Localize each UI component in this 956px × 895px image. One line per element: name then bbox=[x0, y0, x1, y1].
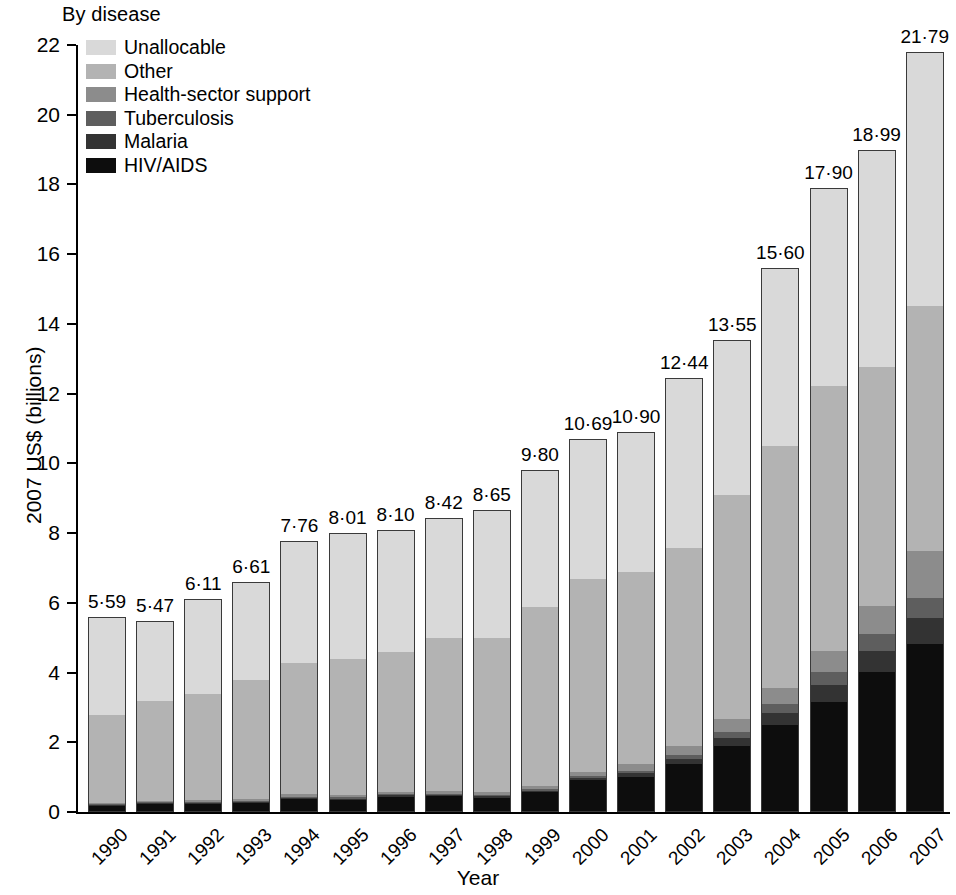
bar bbox=[184, 599, 222, 812]
bar-segment bbox=[859, 150, 895, 367]
bar-segment bbox=[859, 366, 895, 606]
bar-segment bbox=[762, 724, 798, 812]
bar-value-label: 21·79 bbox=[892, 26, 956, 48]
bar-segment bbox=[89, 617, 125, 715]
bar-segment bbox=[907, 597, 943, 618]
bar-value-label: 10·90 bbox=[603, 406, 669, 428]
bar bbox=[810, 188, 848, 812]
y-axis-tick bbox=[67, 462, 76, 464]
bar-segment bbox=[714, 737, 750, 746]
bar-segment bbox=[666, 378, 702, 547]
bar-value-label: 17·90 bbox=[796, 162, 862, 184]
bar-segment bbox=[474, 510, 510, 638]
bar-segment bbox=[907, 52, 943, 306]
bar-segment bbox=[330, 533, 366, 659]
bar-value-label: 18·99 bbox=[844, 124, 910, 146]
bar-segment bbox=[859, 650, 895, 673]
bar bbox=[280, 541, 318, 812]
bar-segment bbox=[378, 530, 414, 653]
bar bbox=[425, 518, 463, 812]
bar-segment bbox=[811, 650, 847, 673]
y-axis-tick-label: 8 bbox=[0, 521, 60, 545]
bar-segment bbox=[618, 571, 654, 764]
bar bbox=[232, 582, 270, 812]
y-axis-tick bbox=[67, 323, 76, 325]
bar-segment bbox=[185, 693, 221, 800]
y-axis-tick-label: 20 bbox=[0, 103, 60, 127]
y-axis-tick bbox=[67, 183, 76, 185]
legend-item: Unallocable bbox=[86, 36, 416, 60]
y-axis-title: 2007 US$ (billions) bbox=[22, 346, 46, 523]
legend-item-label: Health-sector support bbox=[124, 85, 310, 105]
bar-segment bbox=[666, 745, 702, 755]
legend-item: Tuberculosis bbox=[86, 107, 416, 131]
bar-value-label: 12·44 bbox=[651, 352, 717, 374]
legend-item-label: HIV/AIDS bbox=[124, 156, 207, 176]
legend-item-label: Malaria bbox=[124, 132, 188, 152]
bar-segment bbox=[137, 803, 173, 812]
bar-segment bbox=[185, 803, 221, 812]
bar-segment bbox=[426, 518, 462, 638]
bar-segment bbox=[907, 550, 943, 598]
bar-segment bbox=[762, 687, 798, 704]
bar-segment bbox=[378, 651, 414, 791]
bar-segment bbox=[859, 633, 895, 651]
bar-segment bbox=[233, 679, 269, 799]
bar-segment bbox=[666, 547, 702, 746]
bar-segment bbox=[474, 797, 510, 812]
bar-segment bbox=[330, 658, 366, 795]
bar-segment bbox=[522, 470, 558, 606]
y-axis-tick bbox=[67, 114, 76, 116]
bar-segment bbox=[233, 582, 269, 680]
legend-item-label: Unallocable bbox=[124, 38, 226, 58]
bar-segment bbox=[618, 776, 654, 812]
bar bbox=[329, 533, 367, 812]
bar-value-label: 5·47 bbox=[122, 595, 188, 617]
y-axis-tick bbox=[67, 393, 76, 395]
bar-segment bbox=[859, 605, 895, 634]
bar-value-label: 13·55 bbox=[699, 314, 765, 336]
legend-item: Malaria bbox=[86, 130, 416, 154]
bar-segment bbox=[811, 671, 847, 685]
legend-item-label: Tuberculosis bbox=[124, 109, 234, 129]
bar-value-label: 6·61 bbox=[218, 556, 284, 578]
bar-segment bbox=[281, 662, 317, 794]
bar-segment bbox=[714, 745, 750, 812]
bar-segment bbox=[618, 432, 654, 572]
bar bbox=[761, 268, 799, 812]
bar-segment bbox=[426, 795, 462, 812]
bar-segment bbox=[281, 541, 317, 662]
bar-segment bbox=[714, 718, 750, 732]
y-axis-tick bbox=[67, 532, 76, 534]
bar-value-label: 8·65 bbox=[459, 484, 525, 506]
legend-title: By disease bbox=[62, 3, 161, 26]
bar-segment bbox=[281, 798, 317, 812]
bar bbox=[713, 340, 751, 812]
bar-segment bbox=[714, 731, 750, 738]
y-axis-tick-label: 14 bbox=[0, 312, 60, 336]
bar-value-label: 15·60 bbox=[747, 242, 813, 264]
bar-value-label: 9·80 bbox=[507, 444, 573, 466]
bar-segment bbox=[185, 599, 221, 694]
bar-segment bbox=[762, 445, 798, 689]
bar-segment bbox=[714, 494, 750, 719]
bar bbox=[88, 617, 126, 812]
legend-swatch-icon bbox=[86, 158, 116, 173]
legend-swatch-icon bbox=[86, 64, 116, 79]
bar-segment bbox=[762, 712, 798, 724]
legend-swatch-icon bbox=[86, 111, 116, 126]
bar-segment bbox=[811, 684, 847, 702]
bar-segment bbox=[474, 637, 510, 792]
bar-segment bbox=[811, 701, 847, 812]
legend-swatch-icon bbox=[86, 134, 116, 149]
y-axis-tick-label: 4 bbox=[0, 661, 60, 685]
bar-segment bbox=[570, 779, 606, 812]
bar bbox=[136, 621, 174, 812]
x-axis-line bbox=[76, 812, 950, 814]
bar-segment bbox=[907, 617, 943, 644]
bar bbox=[377, 530, 415, 812]
bar-segment bbox=[89, 714, 125, 803]
y-axis-tick-label: 2 bbox=[0, 730, 60, 754]
legend-swatch-icon bbox=[86, 87, 116, 102]
legend-swatch-icon bbox=[86, 40, 116, 55]
